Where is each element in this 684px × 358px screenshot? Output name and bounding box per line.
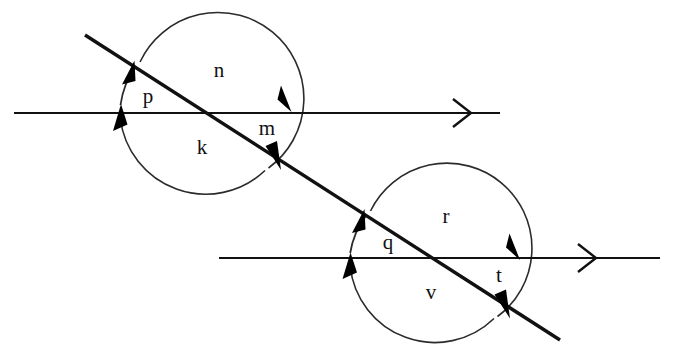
- upper-circle-arc-major: [140, 12, 304, 168]
- angle-diagram-container: p n k m q r v t: [0, 0, 684, 358]
- lower-arrowhead-q-bottom-icon: [343, 253, 358, 280]
- angle-label-t: t: [496, 263, 502, 287]
- upper-arrowhead-m-icon: [266, 141, 282, 170]
- upper-circle-arc-lower-left: [120, 118, 265, 194]
- angle-label-v: v: [426, 280, 437, 304]
- angle-label-k: k: [197, 135, 208, 159]
- lower-arrowhead-t-icon: [495, 290, 511, 319]
- angle-label-p: p: [143, 84, 154, 108]
- transversal-line: [85, 35, 560, 340]
- lower-circle-arc-major: [371, 163, 532, 316]
- lower-arrowhead-r-right-icon: [506, 234, 520, 261]
- angle-label-q: q: [383, 230, 394, 254]
- lower-circle-arc-lower-left: [350, 266, 494, 343]
- angle-diagram-canvas: p n k m q r v t: [0, 0, 684, 358]
- upper-arrowhead-p-bottom-icon: [113, 104, 128, 131]
- angle-label-r: r: [443, 204, 450, 228]
- upper-arrowhead-n-right-icon: [278, 86, 292, 113]
- angle-label-n: n: [214, 58, 225, 82]
- angle-label-m: m: [259, 116, 275, 140]
